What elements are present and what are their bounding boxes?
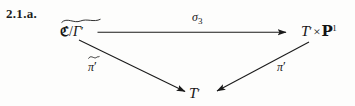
pi-prime-arrow-label: π′ [277, 59, 286, 73]
times-symbol: × [312, 24, 321, 39]
diagram-arrows-layer [0, 0, 355, 106]
node-target: T′×P1 [301, 24, 337, 39]
node-bottom: T′ [189, 86, 200, 101]
source-prime: ′ [81, 23, 84, 38]
frak-b-symbol: ℭ [60, 24, 69, 39]
pi-tilde-prime-mark: ′ [94, 58, 97, 73]
pi-tilde-symbol: π [88, 60, 94, 74]
figure-canvas: 2.1.a. ℭ/Γ′ T′×P1 T′ σ3 [0, 0, 355, 106]
sigma-subscript: 3 [198, 16, 203, 26]
node-source: ℭ/Γ′ [60, 22, 84, 39]
sigma-3-arrow-label: σ3 [192, 11, 202, 26]
bottom-prime: ′ [197, 85, 200, 100]
pi-prime-mark: ′ [283, 58, 286, 73]
blackboard-p-symbol: P [322, 22, 333, 40]
widetilde-accent-group: ℭ/Γ′ [60, 22, 84, 39]
pi-tilde-accent-group: π [88, 61, 94, 73]
gamma-symbol: Γ [73, 24, 81, 39]
pi-tilde-prime-arrow-label: π ′ [88, 59, 97, 73]
tilde-icon [88, 55, 100, 60]
pi-prime-arrow-line [217, 42, 309, 91]
target-exponent: 1 [332, 23, 337, 33]
